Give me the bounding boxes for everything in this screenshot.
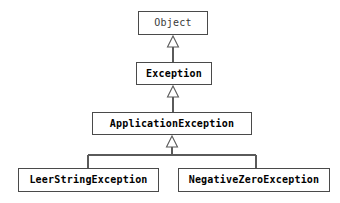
class-node-leer-string-exception[interactable]: LeerStringException: [18, 168, 159, 192]
class-node-application-exception-label: ApplicationException: [110, 118, 234, 128]
class-node-negative-zero-exception[interactable]: NegativeZeroException: [178, 168, 330, 192]
class-node-object[interactable]: Object: [138, 11, 208, 35]
class-node-exception[interactable]: Exception: [136, 62, 212, 85]
generalization-arrowhead-to-object: [168, 36, 179, 47]
generalization-arrowhead-to-applicationexception: [167, 136, 178, 147]
class-node-negative-zero-exception-label: NegativeZeroException: [189, 175, 320, 185]
generalization-arrowhead-to-exception: [168, 86, 179, 97]
class-node-leer-string-exception-label: LeerStringException: [29, 175, 147, 185]
class-node-object-label: Object: [154, 18, 191, 28]
uml-class-diagram: Object Exception ApplicationException Le…: [0, 0, 340, 203]
class-node-application-exception[interactable]: ApplicationException: [92, 112, 252, 135]
class-node-exception-label: Exception: [146, 68, 202, 78]
